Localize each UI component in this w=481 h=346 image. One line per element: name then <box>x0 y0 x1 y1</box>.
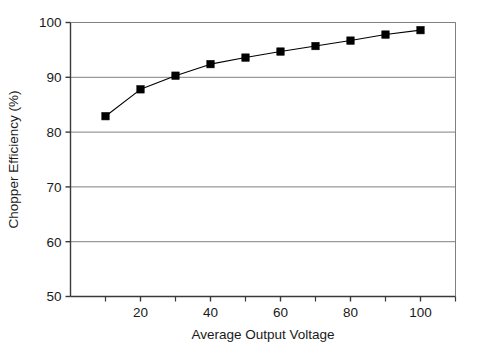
data-point-marker <box>382 31 389 38</box>
y-tick-label: 60 <box>46 235 61 250</box>
x-tick-label: 60 <box>273 305 288 320</box>
plot-area-background <box>71 23 456 297</box>
data-point-marker <box>347 37 354 44</box>
x-tick-label: 20 <box>133 305 148 320</box>
data-point-marker <box>242 54 249 61</box>
x-tick-label: 80 <box>343 305 358 320</box>
data-point-marker <box>172 72 179 79</box>
y-tick-label: 100 <box>39 15 62 30</box>
data-point-marker <box>102 113 109 120</box>
y-tick-label: 80 <box>46 125 61 140</box>
data-point-marker <box>277 48 284 55</box>
y-tick-label: 70 <box>46 180 61 195</box>
x-tick-label: 100 <box>409 305 432 320</box>
data-point-marker <box>137 86 144 93</box>
y-tick-label: 90 <box>46 70 61 85</box>
x-tick-label: 40 <box>203 305 218 320</box>
x-axis-title: Average Output Voltage <box>191 327 334 342</box>
gridlines-group <box>71 23 456 297</box>
data-point-marker <box>417 26 424 33</box>
chart-canvas: 506070809010020406080100Average Output V… <box>0 0 481 346</box>
chart-figure: 506070809010020406080100Average Output V… <box>0 0 481 346</box>
y-tick-label: 50 <box>46 289 61 304</box>
data-point-marker <box>312 42 319 49</box>
y-axis-title: Chopper Efficiency (%) <box>6 91 21 229</box>
data-point-marker <box>207 60 214 67</box>
